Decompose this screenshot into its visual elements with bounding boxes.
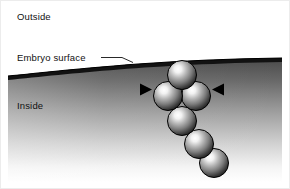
sphere-1	[168, 61, 197, 90]
embryo-surface-figure: Outside Embryo surface Inside	[0, 0, 290, 189]
label-embryo-surface: Embryo surface	[17, 52, 86, 63]
label-outside: Outside	[17, 11, 51, 22]
sphere-4	[168, 107, 197, 136]
label-inside: Inside	[17, 100, 43, 111]
figure-canvas	[0, 0, 290, 189]
embryo-interior-side-shading	[8, 58, 282, 182]
